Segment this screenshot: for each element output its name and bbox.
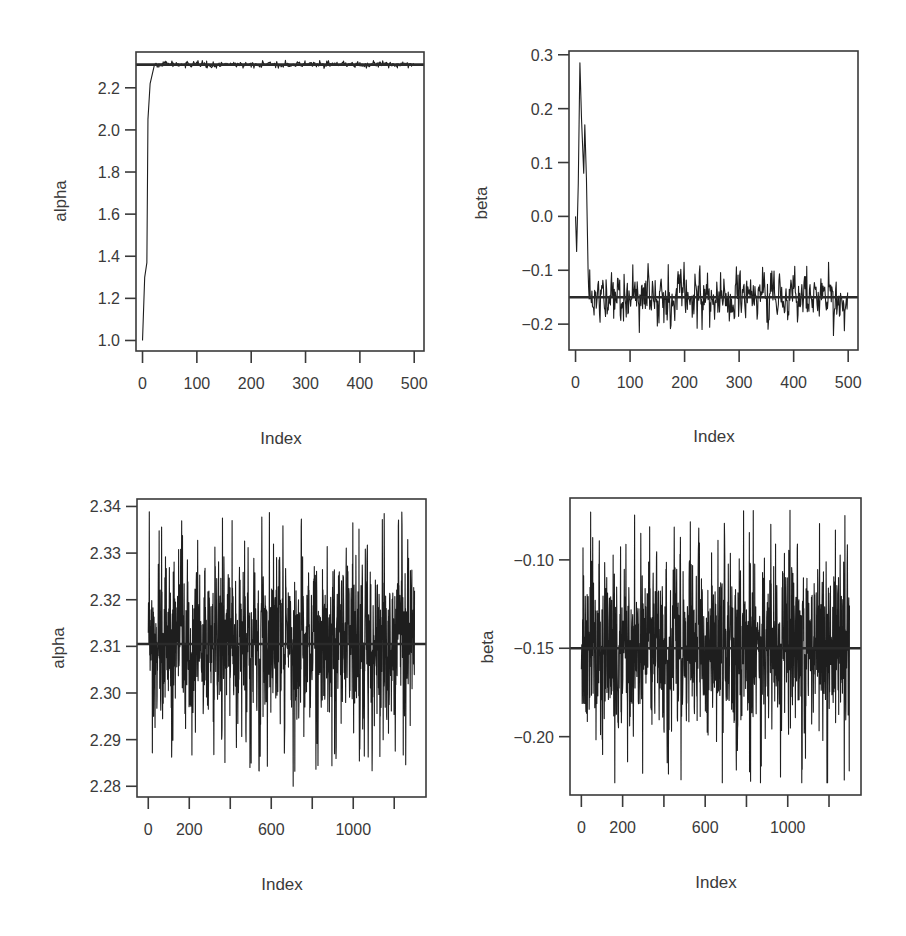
- x-tick-label: 100: [184, 375, 211, 392]
- y-tick-label: 2.0: [98, 122, 120, 139]
- x-tick-label: 400: [347, 375, 374, 392]
- y-tick-label: −0.1: [521, 262, 553, 279]
- y-tick-label: 2.33: [90, 545, 121, 562]
- y-tick-label: −0.15: [514, 640, 555, 657]
- y-tick-label: 1.0: [98, 332, 120, 349]
- y-tick-label: 2.28: [90, 778, 121, 795]
- x-tick-label: 200: [609, 819, 636, 836]
- x-tick-label: 100: [617, 374, 644, 391]
- x-tick-label: 600: [258, 821, 285, 838]
- x-axis-title: Index: [693, 427, 735, 446]
- y-tick-label: 0.1: [531, 155, 553, 172]
- y-tick-label: 2.31: [90, 638, 121, 655]
- x-axis-title: Index: [260, 429, 302, 448]
- x-tick-label: 200: [671, 374, 698, 391]
- y-tick-label: 1.8: [98, 164, 120, 181]
- x-tick-label: 1000: [335, 821, 371, 838]
- y-axis: −0.20−0.15−0.10: [514, 552, 570, 746]
- y-axis-title: alpha: [49, 627, 68, 669]
- y-axis: 2.282.292.302.312.322.332.34: [90, 498, 137, 795]
- x-tick-label: 200: [238, 375, 265, 392]
- y-axis-title: beta: [478, 630, 497, 664]
- trace-line: [581, 510, 849, 782]
- x-tick-label: 500: [401, 375, 428, 392]
- panel-alpha-burnin: 1.01.21.41.61.82.02.2 0100200300400500 a…: [51, 52, 428, 448]
- trace-path: [581, 510, 849, 782]
- trace-plot-figure: 1.01.21.41.61.82.02.2 0100200300400500 a…: [0, 0, 906, 936]
- panel-beta-burnin: −0.2−0.10.00.10.20.3 0100200300400500 be…: [472, 47, 862, 446]
- panel-beta-chain: −0.20−0.15−0.10 02006001000 beta Index: [478, 498, 861, 892]
- y-tick-label: 2.34: [90, 498, 121, 515]
- x-axis: 0100200300400500: [138, 351, 428, 392]
- trace-line: [143, 60, 414, 340]
- y-tick-label: 1.6: [98, 206, 120, 223]
- x-tick-label: 300: [292, 375, 319, 392]
- y-tick-label: 0.3: [531, 47, 553, 64]
- x-axis: 02006001000: [144, 797, 394, 838]
- x-tick-label: 200: [176, 821, 203, 838]
- y-tick-label: 2.32: [90, 592, 121, 609]
- x-tick-label: 0: [577, 819, 586, 836]
- panel-alpha-chain: 2.282.292.302.312.322.332.34 02006001000…: [49, 498, 426, 894]
- y-tick-label: −0.20: [514, 729, 555, 746]
- trace-path: [576, 63, 848, 336]
- x-tick-label: 500: [835, 374, 862, 391]
- plot-frame: [136, 52, 424, 351]
- y-tick-label: 2.2: [98, 80, 120, 97]
- x-tick-label: 0: [571, 374, 580, 391]
- y-axis: 1.01.21.41.61.82.02.2: [98, 80, 136, 350]
- x-axis: 02006001000: [577, 795, 829, 836]
- x-tick-label: 0: [144, 821, 153, 838]
- x-tick-label: 600: [692, 819, 719, 836]
- y-tick-label: −0.10: [514, 552, 555, 569]
- x-axis-title: Index: [261, 875, 303, 894]
- x-tick-label: 0: [138, 375, 147, 392]
- x-tick-label: 1000: [770, 819, 806, 836]
- y-tick-label: 1.2: [98, 290, 120, 307]
- y-tick-label: 2.29: [90, 732, 121, 749]
- x-axis: 0100200300400500: [571, 350, 862, 391]
- y-axis: −0.2−0.10.00.10.20.3: [521, 47, 569, 333]
- trace-line: [148, 512, 414, 787]
- y-tick-label: 1.4: [98, 248, 120, 265]
- trace-line: [576, 63, 848, 336]
- y-axis-title: alpha: [51, 180, 70, 222]
- trace-path: [148, 512, 414, 787]
- x-tick-label: 400: [780, 374, 807, 391]
- x-tick-label: 300: [726, 374, 753, 391]
- y-axis-title: beta: [472, 186, 491, 220]
- y-tick-label: −0.2: [521, 316, 553, 333]
- x-axis-title: Index: [695, 873, 737, 892]
- y-tick-label: 0.0: [531, 208, 553, 225]
- y-tick-label: 0.2: [531, 101, 553, 118]
- trace-path: [143, 60, 414, 340]
- y-tick-label: 2.30: [90, 685, 121, 702]
